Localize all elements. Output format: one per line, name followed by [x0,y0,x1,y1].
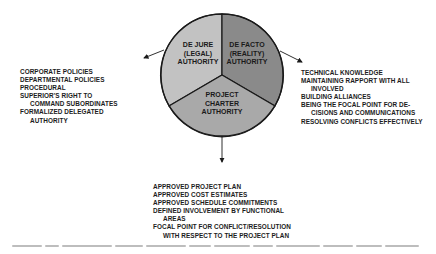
list-item: RESOLVING CONFLICTS EFFECTIVELY [301,118,423,126]
list-item: FOCAL POINT FOR CONFLICT/RESOLUTION [153,223,291,231]
project-charter-line-1: PROJECT [187,91,257,100]
left-arrow [144,50,164,58]
project-charter-line-3: AUTHORITY [187,108,257,117]
cropped-caption-fragment [12,244,422,248]
list-item: WITH RESPECT TO THE PROJECT PLAN [153,232,291,240]
list-item: INVOLVED [301,85,423,93]
list-item: APPROVED SCHEDULE COMMITMENTS [153,199,291,207]
list-item: PROCEDURAL [20,84,118,92]
list-item: APPROVED COST ESTIMATES [153,191,291,199]
project-charter-sources-list: APPROVED PROJECT PLAN APPROVED COST ESTI… [153,183,291,240]
list-item: AUTHORITY [20,117,118,125]
de-facto-line-3: AUTHORITY [212,58,282,67]
list-item: SUPERIOR'S RIGHT TO [20,92,118,100]
list-item: TECHNICAL KNOWLEDGE [301,69,423,77]
de-jure-sources-list: CORPORATE POLICIES DEPARTMENTAL POLICIES… [20,68,118,125]
list-item: FORMALIZED DELEGATED [20,108,118,116]
de-facto-line-2: (REALITY) [212,50,282,59]
de-facto-sources-list: TECHNICAL KNOWLEDGE MAINTAINING RAPPORT … [301,69,423,126]
list-item: DEFINED INVOLVEMENT BY FUNCTIONAL [153,207,291,215]
project-charter-line-2: CHARTER [187,100,257,109]
list-item: DEPARTMENTAL POLICIES [20,76,118,84]
list-item: CISIONS AND COMMUNICATIONS [301,109,423,117]
list-item: APPROVED PROJECT PLAN [153,183,291,191]
de-facto-line-1: DE FACTO [212,41,282,50]
right-arrow [280,51,302,62]
list-item: BEING THE FOCAL POINT FOR DE- [301,101,423,109]
list-item: COMMAND SUBORDINATES [20,100,118,108]
list-item: AREAS [153,215,291,223]
list-item: MAINTAINING RAPPORT WITH ALL [301,77,423,85]
project-charter-label: PROJECT CHARTER AUTHORITY [187,91,257,117]
list-item: BUILDING ALLIANCES [301,93,423,101]
de-facto-label: DE FACTO (REALITY) AUTHORITY [212,41,282,67]
list-item: CORPORATE POLICIES [20,68,118,76]
authority-diagram: DE JURE (LEGAL) AUTHORITY DE FACTO (REAL… [0,0,436,254]
